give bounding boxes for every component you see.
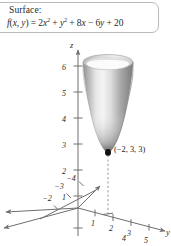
x-tick-neg3: −3 <box>54 182 63 191</box>
z-tick-1: 1 <box>62 193 66 202</box>
axis-y: 1 2 3 4 5 y <box>78 208 170 245</box>
y-tick-2: 2 <box>109 224 113 233</box>
y-tick-4: 4 <box>122 234 126 243</box>
paraboloid-surface <box>83 55 133 154</box>
y-tick-1: 1 <box>91 219 95 228</box>
plot-area: 1 2 3 4 5 6 z 1 2 3 4 5 y <box>0 0 171 246</box>
z-axis-label: z <box>69 40 74 50</box>
y-axis-label: y <box>165 227 170 237</box>
surface-figure: Surface: f(x, y) = 2x2 + y2 + 8x − 6y + … <box>0 0 171 246</box>
vertex-label: (−2, 3, 3) <box>114 145 145 154</box>
vertex-point <box>105 149 111 156</box>
y-tick-5: 5 <box>144 236 148 245</box>
bowl-shading <box>83 62 133 153</box>
vertex-base-tick <box>103 213 113 214</box>
z-tick-5: 5 <box>62 89 66 98</box>
z-tick-4: 4 <box>62 115 66 124</box>
z-tick-3: 3 <box>61 141 66 150</box>
x-tick-neg4: −4 <box>66 174 75 183</box>
y-tick-3: 3 <box>126 229 131 238</box>
x-tick-neg2: −2 <box>42 194 51 203</box>
z-tick-6: 6 <box>62 63 66 72</box>
